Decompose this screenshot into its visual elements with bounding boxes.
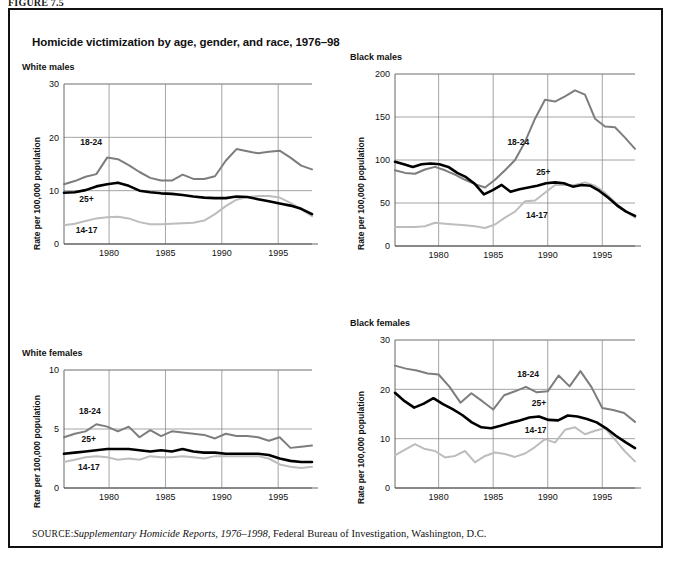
series-annotation-14-17: 14-17 <box>76 225 98 235</box>
figure-frame: Homicide victimization by age, gender, a… <box>8 8 663 548</box>
panel-title-black-males: Black males <box>350 52 402 62</box>
y-tick-label: 20 <box>380 385 390 395</box>
x-tick-label: 1980 <box>429 492 449 502</box>
series-annotation-25+: 25+ <box>79 194 93 204</box>
source-title: Supplementary Homicide Reports, 1976–199… <box>74 528 268 539</box>
y-tick-label: 30 <box>49 79 59 89</box>
y-tick-label: 10 <box>49 186 59 196</box>
plot-svg-black-females: 0102030198019851990199518-2425+14-17 <box>350 332 655 524</box>
series-annotation-25+: 25+ <box>536 167 550 177</box>
y-tick-label: 5 <box>54 424 59 434</box>
y-tick-label: 200 <box>375 69 390 79</box>
y-tick-label: 10 <box>380 434 390 444</box>
panel-black-females: Black females Rate per 100,000 populatio… <box>350 318 655 518</box>
panel-white-females: White females Rate per 100,000 populatio… <box>22 348 332 523</box>
series-annotation-18-24: 18-24 <box>79 406 101 416</box>
data-series-line-18-24 <box>395 366 635 422</box>
y-tick-label: 0 <box>385 483 390 493</box>
panel-title-white-females: White females <box>22 348 83 358</box>
series-annotation-14-17: 14-17 <box>525 425 547 435</box>
series-annotation-14-17: 14-17 <box>526 210 548 220</box>
x-tick-label: 1990 <box>538 250 558 260</box>
data-series-line-25+ <box>64 449 312 462</box>
data-series-line-14-17 <box>395 427 635 462</box>
x-tick-label: 1990 <box>212 248 232 258</box>
figure-title: Homicide victimization by age, gender, a… <box>32 36 340 48</box>
plot-svg-white-males: 0102030198019851990199518-2425+14-17 <box>22 76 332 276</box>
x-tick-label: 1985 <box>155 248 175 258</box>
y-tick-label: 100 <box>375 155 390 165</box>
x-tick-label: 1995 <box>592 250 612 260</box>
plot-black-females: 0102030198019851990199518-2425+14-17 <box>350 332 655 528</box>
x-tick-label: 1990 <box>212 492 232 502</box>
source-note: SOURCE:Supplementary Homicide Reports, 1… <box>32 528 486 539</box>
series-annotation-25+: 25+ <box>82 434 96 444</box>
series-annotation-25+: 25+ <box>532 398 546 408</box>
data-series-line-25+ <box>64 183 312 214</box>
source-keyword: SOURCE: <box>32 529 74 539</box>
x-tick-label: 1985 <box>483 250 503 260</box>
x-tick-label: 1995 <box>268 248 288 258</box>
figure-label: FIGURE 7.5 <box>8 0 64 8</box>
source-publisher: , Federal Bureau of Investigation, Washi… <box>268 528 487 539</box>
y-tick-label: 10 <box>49 365 59 375</box>
plot-black-males: 050100150200198019851990199518-2425+14-1… <box>350 66 655 280</box>
plot-white-males: 0102030198019851990199518-2425+14-17 <box>22 76 332 280</box>
x-tick-label: 1995 <box>268 492 288 502</box>
y-tick-label: 0 <box>54 239 59 249</box>
data-series-line-18-24 <box>64 424 312 448</box>
data-series-line-14-17 <box>64 196 312 225</box>
y-tick-label: 0 <box>385 241 390 251</box>
series-annotation-18-24: 18-24 <box>517 369 539 379</box>
x-tick-label: 1985 <box>155 492 175 502</box>
y-tick-label: 0 <box>54 483 59 493</box>
series-annotation-18-24: 18-24 <box>80 137 102 147</box>
y-tick-label: 50 <box>380 198 390 208</box>
x-tick-label: 1980 <box>99 492 119 502</box>
series-annotation-18-24: 18-24 <box>507 137 529 147</box>
series-annotation-14-17: 14-17 <box>78 462 100 472</box>
panel-black-males: Black males Rate per 100,000 population … <box>350 52 655 280</box>
panel-white-males: White males Rate per 100,000 population … <box>22 62 332 277</box>
x-tick-label: 1980 <box>429 250 449 260</box>
x-tick-label: 1985 <box>483 492 503 502</box>
plot-svg-white-females: 0510198019851990199518-2425+14-17 <box>22 362 332 522</box>
panel-title-black-females: Black females <box>350 318 410 328</box>
x-tick-label: 1995 <box>592 492 612 502</box>
plot-svg-black-males: 050100150200198019851990199518-2425+14-1… <box>350 66 655 276</box>
y-tick-label: 20 <box>49 133 59 143</box>
panel-title-white-males: White males <box>22 62 75 72</box>
plot-white-females: 0510198019851990199518-2425+14-17 <box>22 362 332 526</box>
y-tick-label: 150 <box>375 112 390 122</box>
y-tick-label: 30 <box>380 335 390 345</box>
data-series-line-18-24 <box>64 149 312 184</box>
x-tick-label: 1990 <box>538 492 558 502</box>
x-tick-label: 1980 <box>99 248 119 258</box>
